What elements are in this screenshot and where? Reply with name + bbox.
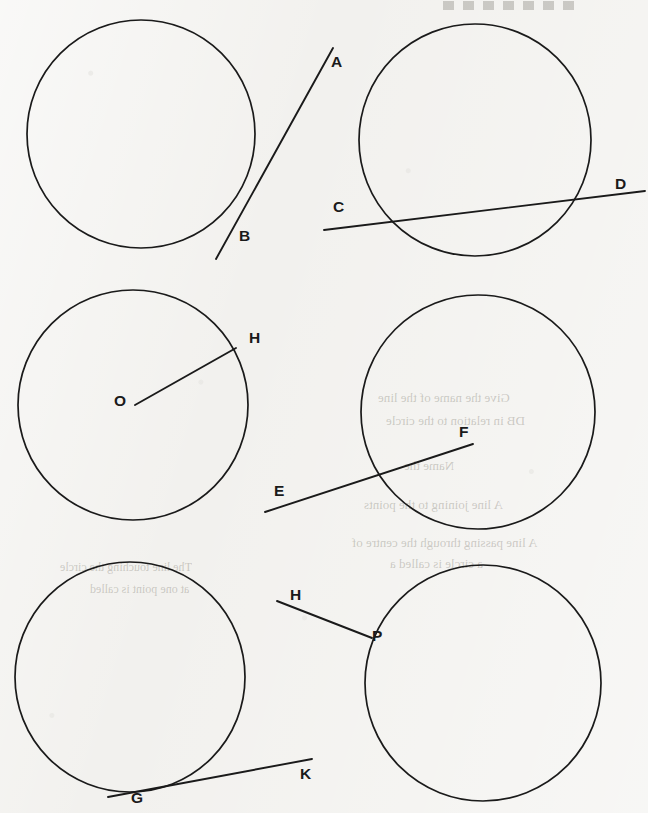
point-label-f-3-1: F — [459, 423, 468, 440]
point-label-g-4-0: G — [131, 789, 143, 806]
lines-group — [108, 48, 645, 797]
point-label-h-2-1: H — [249, 329, 260, 346]
circle-with-chord-ef-outline — [361, 295, 595, 529]
point-label-o-2-0: O — [114, 392, 126, 409]
line-oh — [135, 348, 236, 405]
line-hp — [277, 601, 372, 638]
circles-group — [15, 20, 601, 801]
point-labels-group: ABCDOHEFGKHP — [114, 53, 626, 806]
point-label-p-5-1: P — [372, 627, 382, 644]
circle-with-tangent-gk-outline — [15, 562, 245, 792]
line-ab — [216, 48, 333, 259]
point-label-c-1-0: C — [333, 198, 344, 215]
point-label-e-3-0: E — [274, 482, 284, 499]
point-label-d-1-1: D — [615, 175, 626, 192]
point-label-b-0-1: B — [239, 227, 250, 244]
circle-with-radius-oh-outline — [18, 290, 248, 520]
scanned-geometry-page: Give the name of the lineDB in relation … — [0, 0, 648, 813]
circle-with-tangent-hp-outline — [365, 565, 601, 801]
geometry-figure-svg: ABCDOHEFGKHP — [0, 0, 648, 813]
point-label-k-4-1: K — [300, 765, 312, 782]
circle-with-tangent-ab-outline — [27, 20, 255, 248]
line-cd — [324, 191, 645, 230]
point-label-a-0-0: A — [331, 53, 342, 70]
point-label-h-5-0: H — [290, 586, 301, 603]
